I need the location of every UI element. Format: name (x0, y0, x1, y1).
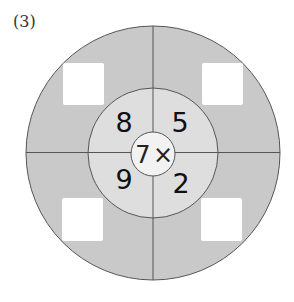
center-multiplier: 7 (135, 141, 150, 169)
answer-box-top-right[interactable] (202, 63, 243, 105)
answer-box-bottom-right[interactable] (201, 198, 242, 241)
answer-box-bottom-left[interactable] (62, 198, 103, 241)
multiplication-wheel: 8 5 9 2 7 × (0, 0, 294, 302)
number-bottom-left: 9 (115, 164, 132, 195)
number-top-left: 8 (115, 107, 132, 138)
answer-box-top-left[interactable] (63, 63, 104, 105)
number-top-right: 5 (171, 107, 188, 138)
multiply-sign-icon: × (153, 141, 173, 169)
number-bottom-right: 2 (172, 168, 189, 199)
